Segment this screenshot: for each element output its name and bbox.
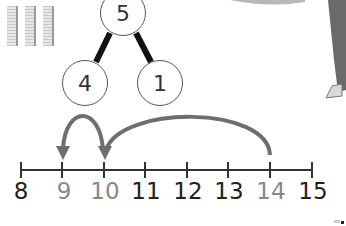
tick-label-15: 15	[298, 180, 327, 203]
tick-label-11: 11	[131, 180, 160, 203]
tick-label-9: 9	[57, 180, 72, 203]
tick-label-10: 10	[90, 180, 119, 203]
tick-label-14: 14	[256, 180, 285, 203]
jump-arrow-14-to-10	[106, 117, 270, 155]
tick-label-12: 12	[173, 180, 202, 203]
arrowhead-icon	[56, 146, 70, 160]
tick-label-13: 13	[214, 180, 243, 203]
jump-arrow-10-to-9	[63, 116, 103, 150]
arrowhead-icon	[98, 146, 112, 160]
corner-mark-icon	[334, 218, 344, 224]
tick-label-8: 8	[14, 180, 29, 203]
